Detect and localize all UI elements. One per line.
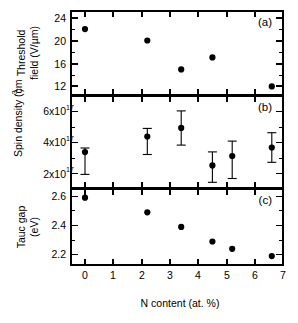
panel-b-x-ticks <box>85 96 255 188</box>
panel-a-x-ticks <box>85 11 255 95</box>
data-point <box>209 238 215 244</box>
xticklabel-6: 6 <box>252 269 258 281</box>
data-point-with-errorbar <box>143 128 152 154</box>
panel-a-yticklabel-12: 12 <box>54 80 66 92</box>
panel-a-ylabel-line1: Threshold <box>15 30 27 77</box>
panel-c-y-axis-title: Tauc gap (eV) <box>15 206 40 249</box>
x-axis-title: N content (at. %) <box>141 297 220 309</box>
data-point <box>82 195 88 201</box>
panel-b-yticklabel-4e17: 4x10 <box>43 136 66 148</box>
data-point-with-errorbar <box>177 111 186 145</box>
panel-a-yticklabel-16: 16 <box>54 58 66 70</box>
panel-c-y-ticklabels: 2.6 2.4 2.2 <box>51 190 66 260</box>
xticklabel-3: 3 <box>167 269 173 281</box>
panel-c-yticklabel-24: 2.4 <box>51 219 66 231</box>
data-point <box>269 83 275 89</box>
panel-c-datapoints <box>82 195 275 260</box>
data-point-with-errorbar <box>267 133 276 163</box>
panel-c-ylabel-line2: (eV) <box>28 217 40 237</box>
panel-a-yticklabel-20: 20 <box>54 35 66 47</box>
data-point <box>178 224 184 230</box>
three-panel-scatter-figure: 24 20 16 12 Threshold field (V/µm) (a) <box>0 0 298 323</box>
panel-label-b: (b) <box>258 101 272 113</box>
data-point-with-errorbar <box>228 141 237 178</box>
panel-c: 2.6 2.4 2.2 0 1 2 3 4 5 6 7 Tauc gap (eV… <box>15 189 286 281</box>
panel-b-yticklabel-4e17-exp: 17 <box>66 135 74 142</box>
xticklabel-2: 2 <box>139 269 145 281</box>
xticklabel-1: 1 <box>110 269 116 281</box>
panel-b-frame <box>71 96 283 188</box>
panel-c-y-ticks <box>71 196 283 254</box>
panel-c-yticklabel-26: 2.6 <box>51 190 66 202</box>
panel-b-yticklabel-2e17: 2x10 <box>43 168 66 180</box>
panel-a-y-axis-title: Threshold field (V/µm) <box>15 26 40 80</box>
panel-c-frame <box>71 189 283 265</box>
figure-container: 24 20 16 12 Threshold field (V/µm) (a) <box>0 0 298 323</box>
data-point <box>144 37 150 43</box>
panel-b-datapoints <box>81 111 277 182</box>
xticklabel-7: 7 <box>280 269 286 281</box>
panel-c-x-ticks <box>85 189 255 265</box>
data-point <box>178 66 184 72</box>
panel-b-yticklabel-6e17-exp: 17 <box>66 104 74 111</box>
panel-a-yticklabel-24: 24 <box>54 12 66 24</box>
panel-label-a: (a) <box>258 16 272 28</box>
panel-b-yticklabel-6e17: 6x10 <box>43 105 66 117</box>
data-point-with-errorbar <box>208 152 217 182</box>
panel-c-ylabel-line1: Tauc gap <box>15 206 27 249</box>
xticklabel-5: 5 <box>224 269 230 281</box>
data-point <box>229 246 235 252</box>
data-point-with-errorbar <box>81 148 90 174</box>
panel-label-c: (c) <box>259 194 273 206</box>
panel-b-yticklabel-2e17-exp: 17 <box>66 166 74 173</box>
xticklabel-0: 0 <box>82 269 88 281</box>
panel-a-y-ticks <box>71 18 283 86</box>
panel-a-frame <box>71 11 283 95</box>
panel-a-ylabel-line2: field (V/µm) <box>28 26 40 80</box>
panel-c-x-ticklabels: 0 1 2 3 4 5 6 7 <box>82 269 286 281</box>
panel-b-ylabel-tail: ) <box>12 89 24 93</box>
data-point <box>269 253 275 259</box>
panel-a-y-ticklabels: 24 20 16 12 <box>54 12 66 92</box>
xticklabel-4: 4 <box>195 269 201 281</box>
panel-a: 24 20 16 12 Threshold field (V/µm) (a) <box>15 11 283 95</box>
panel-c-yticklabel-22: 2.2 <box>51 248 66 260</box>
data-point <box>144 209 150 215</box>
panel-b-y-axis-title: Spin density (cm -3 ) <box>11 79 24 157</box>
data-point <box>209 54 215 60</box>
data-point <box>82 26 88 32</box>
panel-a-datapoints <box>82 26 275 90</box>
panel-b-y-ticks <box>71 112 283 174</box>
panel-b: 6x10 17 4x10 17 2x10 17 Spin density (cm… <box>11 79 283 188</box>
panel-b-y-ticklabels: 6x10 17 4x10 17 2x10 17 <box>43 104 74 180</box>
